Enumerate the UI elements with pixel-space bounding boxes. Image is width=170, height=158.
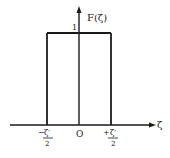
function-label: F(ζ)	[87, 12, 107, 23]
y-axis	[77, 6, 82, 125]
left-tick-label: − ζ′ 2	[38, 128, 53, 148]
x-axis	[10, 123, 156, 128]
right-tick-numerator: ζ′	[110, 128, 116, 137]
rectangular-pulse-diagram: F(ζ) 1 ζ O − ζ′ 2 + ζ′ 2	[0, 0, 170, 158]
left-tick-numerator: ζ′	[44, 128, 50, 137]
x-axis-arrow-icon	[149, 123, 156, 128]
right-tick-sign: +	[103, 128, 110, 137]
y-axis-arrow-icon	[77, 6, 82, 13]
x-axis-label: ζ	[157, 119, 163, 130]
right-tick-label: + ζ′ 2	[103, 128, 118, 148]
height-label: 1	[72, 23, 77, 32]
left-tick-denominator: 2	[45, 140, 49, 148]
right-tick-denominator: 2	[111, 140, 115, 148]
origin-label: O	[76, 129, 83, 139]
